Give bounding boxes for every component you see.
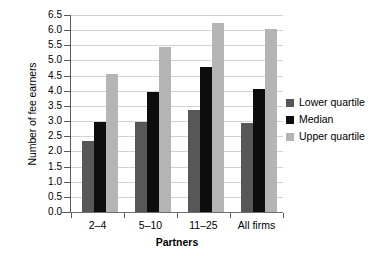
x-axis-tick [177,213,178,218]
bar [253,89,265,212]
bar-group [135,15,171,212]
x-axis-category-label: All firms [222,219,292,231]
legend-swatch [286,116,294,124]
y-axis-tick-label: 1.5 [36,162,62,172]
x-axis-tick [230,213,231,218]
x-axis-title: Partners [71,236,283,248]
bar [159,47,171,212]
bars-layer [71,15,283,212]
bar [94,122,106,212]
bar-group [188,15,224,212]
y-axis-tick-labels: 0.00.51.01.52.02.53.03.54.04.55.05.56.06… [32,0,62,256]
y-axis-tick-label: 3.0 [36,116,62,126]
y-axis-tick-label: 4.0 [36,86,62,96]
y-axis-tick-label: 4.5 [36,71,62,81]
legend-swatch [286,99,294,107]
y-axis-tick-label: 6.0 [36,25,62,35]
legend-label: Median [299,114,333,125]
legend-item[interactable]: Median [286,112,383,127]
bar-group [241,15,277,212]
legend-swatch [286,133,294,141]
x-axis-tick [283,213,284,218]
y-axis-tick-label: 1.0 [36,177,62,187]
legend: Lower quartileMedianUpper quartile [286,95,383,146]
y-axis-tick-label: 3.5 [36,101,62,111]
legend-label: Lower quartile [299,97,365,108]
legend-label: Upper quartile [299,131,365,142]
legend-item[interactable]: Lower quartile [286,95,383,110]
y-axis-tick-label: 0.5 [36,192,62,202]
bar-group [82,15,118,212]
bar [265,29,277,212]
y-axis-tick-label: 5.5 [36,40,62,50]
y-axis-tick-label: 2.0 [36,146,62,156]
y-axis-tick-label: 5.0 [36,55,62,65]
bar [147,92,159,212]
bar-chart: Number of fee earners 0.00.51.01.52.02.5… [0,0,383,256]
bar [82,141,94,212]
bar [212,23,224,212]
bar [200,67,212,212]
bar [106,74,118,212]
bar [188,110,200,212]
bar [135,122,147,212]
y-axis-tick-label: 6.5 [36,10,62,20]
legend-item[interactable]: Upper quartile [286,129,383,144]
x-axis-tick [71,213,72,218]
bar [241,123,253,212]
x-axis-tick [124,213,125,218]
y-axis-tick-label: 2.5 [36,131,62,141]
y-axis-tick-label: 0.0 [36,207,62,217]
plot-area [71,15,283,212]
